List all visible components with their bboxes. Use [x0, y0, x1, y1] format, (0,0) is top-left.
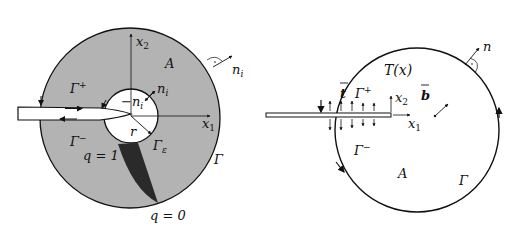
label-gamma: Γ	[213, 152, 224, 167]
label-b-bar: b	[421, 88, 430, 103]
label-q0: q = 0	[150, 208, 186, 223]
label-x2: x2	[395, 90, 408, 107]
left-figure: x2 A ni ni −ni Γ+ Γ− r x1 Γε Γ q = 1 q =…	[18, 28, 243, 223]
label-q1: q = 1	[83, 148, 119, 163]
label-t-bar: t	[340, 86, 346, 101]
label-r: r	[130, 124, 137, 139]
label-gamma-plus: Γ+	[354, 85, 372, 101]
traction-arrows-upper	[330, 101, 374, 111]
diagram-canvas: x2 A ni ni −ni Γ+ Γ− r x1 Γε Γ q = 1 q =…	[0, 0, 510, 236]
label-T: T(x)	[384, 62, 412, 78]
traction-arrows-lower	[330, 119, 374, 130]
label-A: A	[397, 166, 407, 181]
right-angle-dot	[471, 63, 473, 65]
label-n: n	[483, 39, 491, 54]
label-neg-n-inner: −ni	[121, 94, 143, 111]
crack-slit	[266, 113, 391, 117]
label-A: A	[164, 56, 174, 71]
label-gamma-minus: Γ−	[353, 142, 371, 158]
right-angle-dot	[214, 61, 216, 63]
label-x1: x1	[408, 116, 421, 133]
label-n-outer: ni	[232, 62, 243, 79]
body-force-arrow	[435, 104, 448, 116]
right-figure: T(x) t Γ+ x2 x1 b n Γ− A Γ	[266, 39, 499, 212]
label-gamma: Γ	[458, 173, 469, 188]
right-angle-mark	[207, 57, 222, 61]
